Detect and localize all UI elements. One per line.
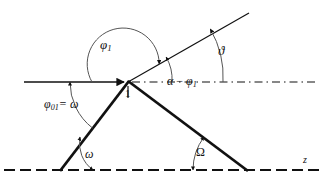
label-phi01-equals-omega-text: = ω	[59, 97, 79, 111]
lower-right-facet-line	[128, 81, 248, 171]
label-phi01-subscript: 01	[51, 103, 59, 112]
label-alpha-minus-phi1: α − φ1	[167, 75, 197, 89]
label-phi01-symbol: φ	[44, 97, 51, 111]
label-z-axis: z	[303, 155, 307, 165]
label-phi-symbol: φ	[186, 74, 193, 88]
label-omega-bottom: ω	[85, 148, 93, 160]
label-phi-subscript: 1	[193, 80, 197, 89]
ray-geometry-diagram: φ1 φ01= ω α − φ1 ϑ ω Ω z 1	[0, 0, 325, 184]
phi1-angle-arc	[87, 28, 159, 82]
diagram-canvas	[0, 0, 325, 184]
label-phi1-subscript: 1	[107, 43, 111, 53]
label-point-1: 1	[125, 88, 131, 99]
outgoing-ray-up	[128, 13, 249, 82]
label-capital-omega-bottom: Ω	[196, 146, 205, 158]
lower-left-facet-line	[60, 81, 129, 171]
label-phi1: φ1	[100, 38, 112, 53]
label-minus-operator: −	[173, 74, 186, 88]
label-phi01-equals-omega: φ01= ω	[44, 98, 78, 112]
label-vartheta: ϑ	[218, 44, 224, 57]
